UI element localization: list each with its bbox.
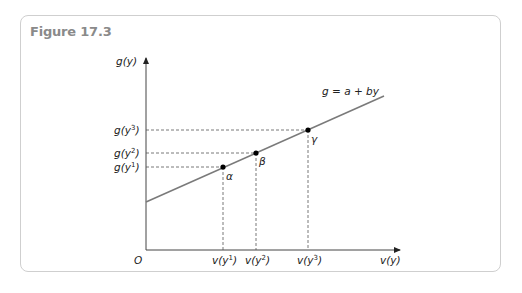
point-alpha bbox=[220, 164, 225, 169]
line-label: g = a + by bbox=[322, 85, 380, 97]
x-tick-2: v(y2) bbox=[245, 254, 270, 266]
point-beta bbox=[253, 150, 258, 155]
regression-line bbox=[146, 96, 384, 202]
y-tick-2: g(y2) bbox=[114, 147, 140, 159]
label-gamma: γ bbox=[311, 133, 318, 145]
diagram-canvas: α β γ g(y) v(y) O g = a + by g(y1) g(y2)… bbox=[0, 0, 522, 293]
x-tick-1: v(y1) bbox=[212, 254, 237, 266]
label-beta: β bbox=[258, 155, 266, 167]
y-axis-label: g(y) bbox=[116, 55, 137, 67]
point-gamma bbox=[305, 127, 310, 132]
x-tick-3: v(y3) bbox=[297, 254, 322, 266]
x-axis-label: v(y) bbox=[380, 254, 401, 266]
label-alpha: α bbox=[226, 170, 233, 182]
guide-lines bbox=[146, 130, 308, 250]
y-tick-3: g(y3) bbox=[114, 124, 140, 136]
y-tick-1: g(y1) bbox=[114, 161, 140, 173]
origin-label: O bbox=[134, 254, 142, 266]
